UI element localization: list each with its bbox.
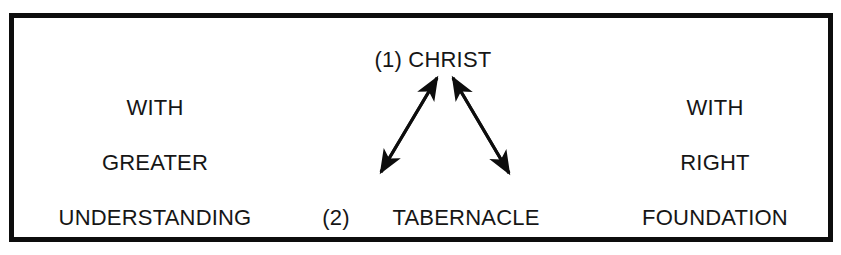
center-top-label-christ: (1) CHRIST (375, 49, 492, 71)
diagram-frame: WITH GREATER UNDERSTANDING (1) CHRIST (2… (9, 13, 833, 242)
center-bottom-label-tabernacle: TABERNACLE (392, 207, 539, 229)
center-bottom-marker: (2) (322, 207, 350, 229)
right-column-line-3: FOUNDATION (642, 207, 788, 229)
right-column-line-1: WITH (686, 97, 743, 119)
left-column-line-2: GREATER (102, 152, 208, 174)
left-column-line-3: UNDERSTANDING (59, 207, 252, 229)
diagram-canvas: WITH GREATER UNDERSTANDING (1) CHRIST (2… (0, 0, 841, 255)
left-column-line-1: WITH (126, 97, 183, 119)
right-column-line-2: RIGHT (680, 152, 749, 174)
